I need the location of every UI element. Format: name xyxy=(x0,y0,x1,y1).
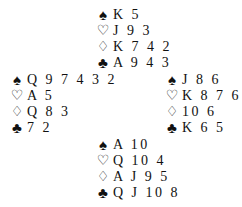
south-clubs-row: ♣Q J 10 8 xyxy=(96,185,180,201)
spade-icon: ♠ xyxy=(96,7,110,23)
club-icon: ♣ xyxy=(165,120,179,136)
club-icon: ♣ xyxy=(96,185,110,201)
diamond-icon: ♢ xyxy=(96,39,110,55)
diamond-icon: ♢ xyxy=(165,104,179,120)
south-diamonds-row: ♢A J 9 5 xyxy=(96,169,180,185)
club-icon: ♣ xyxy=(10,120,24,136)
west-clubs-row: ♣7 2 xyxy=(10,120,117,136)
club-icon: ♣ xyxy=(96,55,110,71)
west-spades-row: ♠Q 9 7 4 3 2 xyxy=(10,72,117,88)
west-diamonds: Q 8 3 xyxy=(27,104,71,120)
south-diamonds: A J 9 5 xyxy=(113,169,170,185)
east-spades-row: ♠J 8 6 xyxy=(165,72,242,88)
south-hearts-row: ♡Q 10 4 xyxy=(96,153,180,169)
west-hand: ♠Q 9 7 4 3 2 ♡A 5 ♢Q 8 3 ♣7 2 xyxy=(10,72,117,136)
east-clubs-row: ♣K 6 5 xyxy=(165,120,242,136)
south-spades: A 10 xyxy=(113,137,150,153)
heart-icon: ♡ xyxy=(96,153,110,169)
north-diamonds-row: ♢K 7 4 2 xyxy=(96,39,172,55)
east-spades: J 8 6 xyxy=(182,72,221,88)
west-hearts-row: ♡A 5 xyxy=(10,88,117,104)
heart-icon: ♡ xyxy=(96,23,110,39)
north-clubs: A 9 4 3 xyxy=(113,55,171,71)
north-spades: K 5 xyxy=(113,7,141,23)
west-spades: Q 9 7 4 3 2 xyxy=(27,72,117,88)
heart-icon: ♡ xyxy=(165,88,179,104)
north-spades-row: ♠K 5 xyxy=(96,7,172,23)
spade-icon: ♠ xyxy=(165,72,179,88)
diamond-icon: ♢ xyxy=(10,104,24,120)
heart-icon: ♡ xyxy=(10,88,24,104)
south-spades-row: ♠A 10 xyxy=(96,137,180,153)
east-hand: ♠J 8 6 ♡K 8 7 6 2 ♢10 6 ♣K 6 5 xyxy=(165,72,242,136)
east-clubs: K 6 5 xyxy=(182,120,226,136)
west-diamonds-row: ♢Q 8 3 xyxy=(10,104,117,120)
south-hand: ♠A 10 ♡Q 10 4 ♢A J 9 5 ♣Q J 10 8 xyxy=(96,137,180,201)
south-clubs: Q J 10 8 xyxy=(113,185,180,201)
east-hearts: K 8 7 6 2 xyxy=(182,88,242,104)
north-hearts: J 9 3 xyxy=(113,23,152,39)
north-hand: ♠K 5 ♡J 9 3 ♢K 7 4 2 ♣A 9 4 3 xyxy=(96,7,172,71)
east-diamonds-row: ♢10 6 xyxy=(165,104,242,120)
north-clubs-row: ♣A 9 4 3 xyxy=(96,55,172,71)
east-diamonds: 10 6 xyxy=(182,104,217,120)
north-diamonds: K 7 4 2 xyxy=(113,39,172,55)
diamond-icon: ♢ xyxy=(96,169,110,185)
north-hearts-row: ♡J 9 3 xyxy=(96,23,172,39)
spade-icon: ♠ xyxy=(10,72,24,88)
spade-icon: ♠ xyxy=(96,137,110,153)
west-clubs: 7 2 xyxy=(27,120,52,136)
west-hearts: A 5 xyxy=(27,88,54,104)
east-hearts-row: ♡K 8 7 6 2 xyxy=(165,88,242,104)
south-hearts: Q 10 4 xyxy=(113,153,166,169)
